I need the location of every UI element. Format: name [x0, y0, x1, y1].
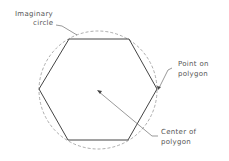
leader-point-on-polygon	[159, 68, 172, 88]
leader-imaginary-circle	[56, 25, 77, 35]
label-circle: circle	[33, 19, 53, 27]
label-point-on: Point on	[178, 60, 209, 68]
hexagon	[39, 39, 157, 140]
label-center-polygon: polygon	[161, 138, 191, 146]
imaginary-circle	[39, 31, 157, 149]
label-center-of: Center of	[161, 128, 196, 136]
label-imaginary: Imaginary	[15, 10, 53, 18]
leader-center	[98, 91, 158, 136]
arrowhead-point	[157, 86, 161, 90]
label-point-polygon: polygon	[178, 70, 208, 78]
